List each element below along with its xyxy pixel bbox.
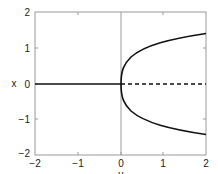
ytick-label: 1	[24, 43, 30, 54]
y-axis-label: x	[12, 78, 17, 89]
xtick-label: 0	[118, 158, 124, 169]
ytick-label: 0	[24, 79, 30, 90]
bifurcation-chart: 2 1 0 −1 −2 −2 −1 0 1 2 μ x	[0, 0, 218, 174]
lower-sqrt-branch	[121, 84, 206, 135]
xtick-label: 2	[203, 158, 209, 169]
ytick-label: 2	[24, 7, 30, 18]
upper-sqrt-branch	[121, 34, 206, 85]
xtick-label: −1	[72, 158, 84, 169]
xtick-label: −2	[29, 158, 41, 169]
xtick-label: 1	[160, 158, 166, 169]
x-axis-label: μ	[118, 169, 124, 174]
ytick-label: −1	[19, 114, 31, 125]
